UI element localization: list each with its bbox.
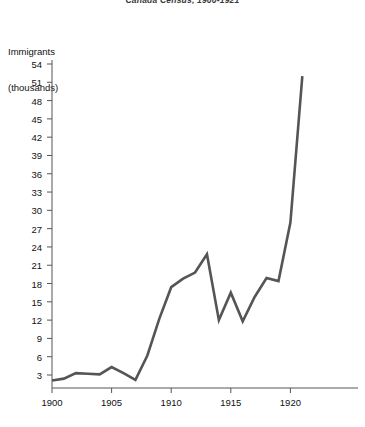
y-tick-label: 51 [0,77,42,88]
y-tick-label: 36 [0,168,42,179]
y-tick-label: 42 [0,132,42,143]
series-line [52,76,302,380]
y-tick-label: 12 [0,315,42,326]
y-tick-label: 9 [0,333,42,344]
y-tick-label: 45 [0,113,42,124]
y-tick-label: 33 [0,187,42,198]
chart-canvas [0,0,365,427]
y-tick-label: 27 [0,223,42,234]
y-tick-label: 54 [0,59,42,70]
data-series [52,76,302,380]
x-tick-label: 1920 [280,397,301,408]
x-tick-label: 1905 [101,397,122,408]
axes [47,60,358,393]
y-tick-label: 24 [0,241,42,252]
x-tick-label: 1910 [161,397,182,408]
y-tick-label: 18 [0,278,42,289]
y-tick-label: 30 [0,205,42,216]
y-tick-label: 15 [0,296,42,307]
y-tick-label: 21 [0,260,42,271]
y-tick-label: 6 [0,351,42,362]
y-tick-label: 39 [0,150,42,161]
y-tick-label: 48 [0,95,42,106]
x-tick-label: 1900 [41,397,62,408]
chart-page: Canada Census, 1900-1921 Immigrants (tho… [0,0,365,427]
y-tick-label: 3 [0,370,42,381]
x-tick-label: 1915 [220,397,241,408]
plot-area: 3691215182124273033363942454851541900190… [0,0,365,427]
